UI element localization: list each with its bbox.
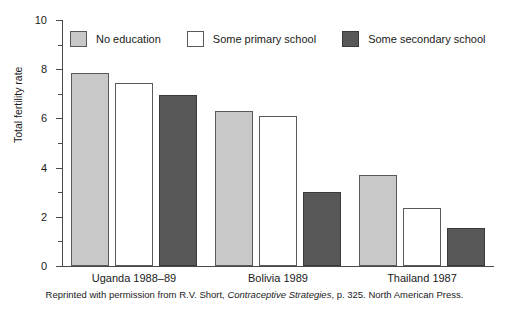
y-tick-label-10: 10 [35,15,47,26]
legend-swatch-1 [187,31,204,47]
caption-text-before: Reprinted with permission from R.V. Shor… [46,289,228,300]
x-label-1: Bolivia 1989 [208,272,348,284]
bar-1-1 [259,116,297,266]
bar-2-0 [359,175,397,266]
x-label-0: Uganda 1988–89 [64,272,204,284]
legend-swatch-0 [70,31,87,47]
x-axis-line [62,266,494,267]
y-tick-label-4: 4 [41,162,47,173]
bar-2-1 [403,208,441,266]
caption-book-title: Contraceptive Strategies [227,289,331,300]
legend-label-0: No education [96,33,161,45]
y-tick-label-0: 0 [41,261,47,272]
bar-1-2 [303,192,341,266]
bar-1-0 [215,111,253,266]
chart-legend: No educationSome primary schoolSome seco… [70,31,486,47]
legend-label-2: Some secondary school [368,33,485,45]
legend-item-1: Some primary school [187,31,316,47]
x-label-2: Thailand 1987 [352,272,492,284]
plot-area [62,20,494,266]
bar-0-2 [159,95,197,266]
legend-label-1: Some primary school [213,33,316,45]
y-tick-label-2: 2 [41,211,47,222]
figure: 0246810 Total fertility rate Uganda 1988… [0,0,509,311]
bar-2-2 [447,228,485,266]
legend-item-0: No education [70,31,161,47]
legend-swatch-2 [342,31,359,47]
y-axis-title: Total fertility rate [12,67,24,143]
y-tick-label-6: 6 [41,113,47,124]
caption-text-after: , p. 325. North American Press. [331,289,463,300]
bar-0-1 [115,83,153,266]
figure-caption: Reprinted with permission from R.V. Shor… [0,289,509,300]
bar-0-0 [71,73,109,266]
legend-item-2: Some secondary school [342,31,485,47]
y-tick-label-8: 8 [41,64,47,75]
